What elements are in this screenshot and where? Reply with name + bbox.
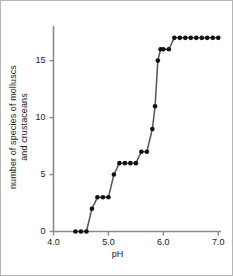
data-point-marker: [150, 127, 155, 132]
y-axis-title-line-2: and crustaceans: [19, 27, 30, 227]
series-markers-group: [73, 36, 220, 234]
data-point-marker: [84, 229, 89, 234]
data-point-marker: [117, 161, 122, 166]
data-point-marker: [101, 195, 106, 200]
data-point-marker: [156, 58, 161, 63]
data-point-marker: [216, 36, 221, 41]
data-point-marker: [112, 172, 117, 177]
data-point-marker: [153, 104, 158, 109]
y-axis-title-line-1: number of species of molluscs: [8, 27, 19, 227]
x-tick-label: 4.0: [39, 237, 69, 247]
data-point-marker: [199, 36, 204, 41]
data-point-marker: [139, 149, 144, 154]
data-point-marker: [172, 36, 177, 41]
data-point-marker: [205, 36, 210, 41]
data-point-marker: [194, 36, 199, 41]
data-point-marker: [189, 36, 194, 41]
axes-group: [54, 26, 222, 232]
data-point-marker: [183, 36, 188, 41]
y-tick-label: 0: [24, 226, 46, 236]
x-tick-label: 7.0: [203, 237, 233, 247]
data-point-marker: [95, 195, 100, 200]
y-axis-title: number of species of molluscs and crusta…: [8, 27, 30, 227]
data-point-marker: [210, 36, 215, 41]
data-point-marker: [134, 161, 139, 166]
data-point-marker: [106, 195, 111, 200]
x-tick-label: 5.0: [93, 237, 123, 247]
figure-frame: 4.05.06.07.0051015 pH number of species …: [0, 0, 233, 276]
data-point-marker: [128, 161, 133, 166]
data-point-marker: [73, 229, 78, 234]
data-point-marker: [161, 47, 166, 52]
x-axis-title: pH: [1, 249, 233, 260]
data-point-marker: [145, 149, 150, 154]
series-line-group: [75, 38, 218, 232]
data-point-marker: [79, 229, 84, 234]
tick-marks-group: [50, 61, 219, 236]
data-point-marker: [167, 47, 172, 52]
series-line: [75, 38, 218, 232]
data-point-marker: [123, 161, 128, 166]
data-point-marker: [178, 36, 183, 41]
data-point-marker: [90, 206, 95, 211]
x-tick-label: 6.0: [148, 237, 178, 247]
